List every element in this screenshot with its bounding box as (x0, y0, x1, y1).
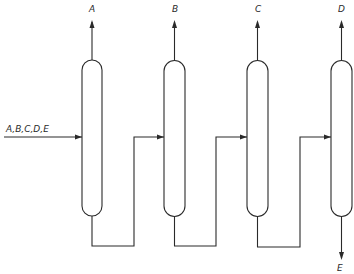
column-1: A (82, 4, 102, 216)
feed-arrow-icon (324, 135, 331, 140)
bottoms-1-to-column-2 (92, 135, 164, 247)
process-flow-diagram: A,B,C,D,E A B C D (0, 0, 354, 274)
bottom-product-label: E (337, 263, 343, 273)
top-product-label: C (255, 4, 262, 14)
top-arrow-icon (255, 20, 260, 28)
top-product-label: B (172, 4, 178, 14)
feed-stream: A,B,C,D,E (4, 124, 82, 140)
top-arrow-icon (172, 20, 177, 28)
top-product-label: A (88, 4, 95, 14)
bottom-arrow-icon (339, 252, 344, 260)
column-2: B (164, 4, 185, 216)
top-arrow-icon (339, 20, 344, 28)
column-3: C (247, 4, 268, 217)
feed-arrow-icon (75, 135, 82, 140)
top-product-label: D (338, 4, 345, 14)
feed-arrow-icon (240, 135, 247, 140)
feed-arrow-icon (157, 135, 164, 140)
column-4: D E (331, 4, 352, 273)
feed-label: A,B,C,D,E (5, 124, 49, 134)
top-arrow-icon (90, 20, 95, 28)
